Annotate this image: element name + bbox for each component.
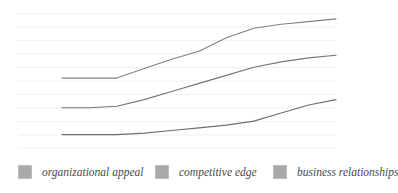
series-line-business-relationships bbox=[62, 100, 336, 135]
legend-item-label: business relationships bbox=[297, 166, 398, 179]
legend-swatch-icon bbox=[18, 165, 32, 179]
legend-item-competitive-edge[interactable]: competitive edge bbox=[155, 160, 257, 184]
legend-swatch-icon bbox=[273, 165, 287, 179]
chart-screenshot: organizational appeal competitive edge b… bbox=[0, 0, 398, 193]
gridlines bbox=[18, 14, 336, 149]
series-line-organizational-appeal bbox=[62, 19, 336, 78]
legend-item-label: competitive edge bbox=[179, 166, 257, 179]
legend-item-business-relationships[interactable]: business relationships bbox=[273, 160, 398, 184]
line-chart-svg bbox=[0, 0, 398, 155]
legend-item-organizational-appeal[interactable]: organizational appeal bbox=[18, 160, 143, 184]
legend-swatch-icon bbox=[155, 165, 169, 179]
legend-item-label: organizational appeal bbox=[42, 166, 143, 179]
plot-area bbox=[0, 0, 398, 155]
chart-legend: organizational appeal competitive edge b… bbox=[0, 160, 398, 193]
